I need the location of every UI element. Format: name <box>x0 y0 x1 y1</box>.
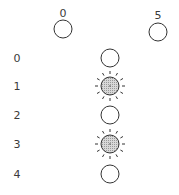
unlit-lamp-row-0 <box>101 49 119 67</box>
lamp-diagram <box>0 0 179 195</box>
column-lamp-5 <box>149 23 167 41</box>
lit-lamp-row-1 <box>95 71 125 101</box>
column-lamp-0 <box>54 20 72 38</box>
lit-lamp-row-3 <box>95 129 125 159</box>
unlit-lamp-row-4 <box>101 165 119 183</box>
unlit-lamp-row-2 <box>101 106 119 124</box>
